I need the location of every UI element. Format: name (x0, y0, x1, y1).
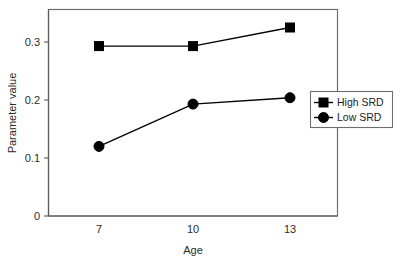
line-chart: 0.3 0.2 0.1 0 7 10 13 Age Parameter valu… (0, 0, 401, 262)
plot-frame (49, 10, 338, 217)
series-low-srd (94, 93, 295, 152)
y-tick-label: 0.3 (25, 36, 40, 48)
chart-legend: High SRD Low SRD (311, 92, 393, 128)
legend-label: High SRD (337, 96, 384, 108)
legend-circle-marker-icon (319, 113, 329, 123)
data-point-marker (285, 93, 295, 103)
legend-square-marker-icon (319, 98, 328, 107)
data-point-marker (286, 23, 295, 32)
x-axis-tick-labels: 7 10 13 (96, 223, 296, 235)
y-tick-label: 0.1 (25, 152, 40, 164)
y-axis-tick-labels: 0.3 0.2 0.1 0 (25, 36, 40, 222)
series-high-srd (95, 23, 295, 51)
legend-item-low-srd[interactable]: Low SRD (314, 111, 382, 123)
data-point-marker (95, 42, 104, 51)
x-tick-label: 7 (96, 223, 102, 235)
y-axis-ticks (44, 42, 49, 216)
x-tick-label: 13 (284, 223, 296, 235)
legend-label: Low SRD (337, 111, 382, 123)
x-tick-label: 10 (187, 223, 199, 235)
y-axis-title: Parameter value (6, 73, 18, 154)
data-point-marker (189, 42, 198, 51)
y-tick-label: 0 (34, 210, 40, 222)
x-axis-title: Age (183, 244, 203, 256)
y-tick-label: 0.2 (25, 94, 40, 106)
chart-figure: 0.3 0.2 0.1 0 7 10 13 Age Parameter valu… (0, 0, 401, 262)
data-point-marker (188, 99, 198, 109)
legend-item-high-srd[interactable]: High SRD (314, 96, 384, 108)
data-point-marker (94, 141, 104, 151)
